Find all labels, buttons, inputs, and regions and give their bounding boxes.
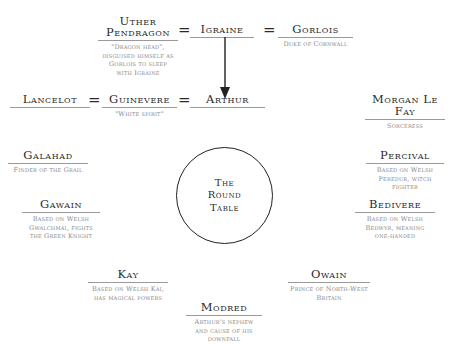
node-guinevere: Guinevere "White spirit" bbox=[102, 93, 177, 119]
gorlois-name: Gorlois bbox=[278, 23, 353, 38]
galahad-desc: Finder of the Grail bbox=[8, 166, 88, 175]
node-gawain: Gawain Based on Welsh Gwalchmai, fights … bbox=[22, 198, 100, 241]
bedivere-desc-line: one-handed bbox=[355, 232, 435, 241]
node-igraine: Igraine bbox=[190, 23, 254, 38]
gawain-name: Gawain bbox=[22, 198, 100, 213]
node-kay: Kay Based on Welsh Kai, has magical powe… bbox=[88, 268, 168, 302]
descent-arrow bbox=[220, 37, 230, 99]
guinevere-desc: "White spirit" bbox=[102, 110, 177, 119]
node-galahad: Galahad Finder of the Grail bbox=[8, 149, 88, 175]
marriage-symbol-igraine-gorlois: = bbox=[263, 23, 276, 38]
bedivere-desc-line: Bedwyr, meaning bbox=[355, 224, 435, 233]
marriage-symbol-uther-igraine: = bbox=[178, 23, 191, 38]
arthur-name: Arthur bbox=[190, 93, 265, 108]
morgan-desc: Sorceress bbox=[365, 122, 445, 131]
gawain-desc-line: Gwalchmai, fights bbox=[22, 224, 100, 233]
uther-desc-line: "Dragon head", bbox=[98, 43, 178, 52]
node-morgan-le-fay: Morgan Le Fay Sorceress bbox=[365, 93, 445, 131]
marriage-symbol-guinevere-arthur: = bbox=[178, 93, 191, 108]
uther-desc: "Dragon head", disguised himself as Gorl… bbox=[98, 43, 178, 77]
round-table-label: The Round Table bbox=[208, 177, 241, 215]
guinevere-desc-line: "White spirit" bbox=[102, 110, 177, 119]
node-uther-pendragon: Uther Pendragon "Dragon head", disguised… bbox=[98, 16, 178, 77]
modred-name: Modred bbox=[186, 301, 262, 316]
modred-desc: Arthur's nephew and cause of his downfal… bbox=[186, 318, 262, 344]
percival-desc-line: Peredur, witch bbox=[366, 175, 444, 184]
guinevere-name: Guinevere bbox=[102, 93, 177, 108]
bedivere-desc: Based on Welsh Bedwyr, meaning one-hande… bbox=[355, 215, 435, 241]
owain-desc-line: Prince of North-West bbox=[288, 285, 370, 294]
round-table-circle: The Round Table bbox=[176, 147, 273, 244]
node-gorlois: Gorlois Duke of Cornwall bbox=[278, 23, 353, 49]
percival-desc-line: fighter bbox=[366, 183, 444, 192]
kay-desc-line: has magical powers bbox=[88, 294, 168, 303]
kay-desc-line: Based on Welsh Kai, bbox=[88, 285, 168, 294]
modred-desc-line: and cause of his bbox=[186, 327, 262, 336]
percival-desc: Based on Welsh Peredur, witch fighter bbox=[366, 166, 444, 192]
owain-desc: Prince of North-West Britain bbox=[288, 285, 370, 302]
node-bedivere: Bedivere Based on Welsh Bedwyr, meaning … bbox=[355, 198, 435, 241]
kay-desc: Based on Welsh Kai, has magical powers bbox=[88, 285, 168, 302]
modred-desc-line: Arthur's nephew bbox=[186, 318, 262, 327]
uther-name-line2: Pendragon bbox=[106, 25, 170, 39]
node-lancelot: Lancelot bbox=[10, 93, 90, 108]
gorlois-desc-line: Duke of Cornwall bbox=[278, 40, 353, 49]
bedivere-desc-line: Based on Welsh bbox=[355, 215, 435, 224]
galahad-desc-line: Finder of the Grail bbox=[8, 166, 88, 175]
modred-desc-line: downfall bbox=[186, 335, 262, 344]
percival-desc-line: Based on Welsh bbox=[366, 166, 444, 175]
uther-desc-line: Gorlois to sleep bbox=[98, 60, 178, 69]
gawain-desc-line: the Green Knight bbox=[22, 232, 100, 241]
kay-name: Kay bbox=[88, 268, 168, 283]
igraine-name: Igraine bbox=[190, 23, 254, 38]
uther-name: Uther Pendragon bbox=[98, 16, 178, 41]
morgan-name: Morgan Le Fay bbox=[365, 93, 445, 120]
gorlois-desc: Duke of Cornwall bbox=[278, 40, 353, 49]
marriage-symbol-lancelot-guinevere: = bbox=[88, 93, 101, 108]
owain-name: Owain bbox=[288, 268, 370, 283]
uther-desc-line: disguised himself as bbox=[98, 52, 178, 61]
gawain-desc-line: Based on Welsh bbox=[22, 215, 100, 224]
lancelot-name: Lancelot bbox=[10, 93, 90, 108]
node-arthur: Arthur bbox=[190, 93, 265, 108]
node-percival: Percival Based on Welsh Peredur, witch f… bbox=[366, 149, 444, 192]
percival-name: Percival bbox=[366, 149, 444, 164]
morgan-desc-line: Sorceress bbox=[365, 122, 445, 131]
galahad-name: Galahad bbox=[8, 149, 88, 164]
bedivere-name: Bedivere bbox=[355, 198, 435, 213]
owain-desc-line: Britain bbox=[288, 294, 370, 303]
node-modred: Modred Arthur's nephew and cause of his … bbox=[186, 301, 262, 344]
gawain-desc: Based on Welsh Gwalchmai, fights the Gre… bbox=[22, 215, 100, 241]
uther-desc-line: with Igraine bbox=[98, 69, 178, 78]
node-owain: Owain Prince of North-West Britain bbox=[288, 268, 370, 302]
